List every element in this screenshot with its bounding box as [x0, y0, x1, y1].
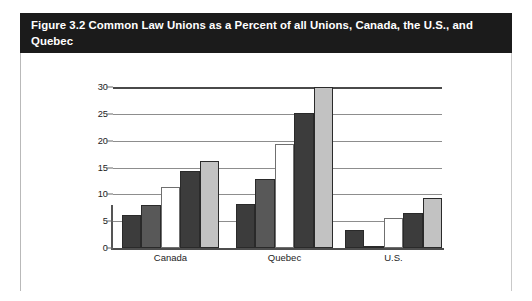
y-tick-label-30: 30	[82, 82, 108, 92]
bar-quebec-series-1	[236, 204, 255, 248]
y-axis-line	[111, 205, 113, 250]
y-tick-label-0: 0	[82, 243, 108, 253]
x-axis-label-canada: Canada	[154, 252, 187, 263]
bar-canada-series-4	[180, 171, 199, 248]
figure-title: Figure 3.2 Common Law Unions as a Percen…	[31, 18, 501, 49]
bar-us-series-5	[423, 198, 442, 248]
y-tick-mark-25	[106, 113, 113, 114]
bar-us-series-4	[403, 213, 422, 248]
bar-us-series-3	[384, 218, 403, 248]
y-axis-tick-labels: 051015202530	[78, 87, 108, 248]
y-tick-mark-15	[106, 167, 113, 168]
bar-canada-series-5	[200, 161, 219, 248]
bar-canada-series-1	[122, 215, 141, 248]
gridline-20	[113, 141, 442, 142]
figure-card: Figure 3.2 Common Law Unions as a Percen…	[0, 0, 532, 301]
bar-us-series-1	[345, 230, 364, 248]
y-tick-label-20: 20	[82, 136, 108, 146]
bar-quebec-series-3	[275, 144, 294, 248]
gridline-25	[113, 114, 442, 115]
x-axis-label-quebec: Quebec	[268, 252, 301, 263]
y-tick-label-15: 15	[82, 163, 108, 173]
y-tick-label-5: 5	[82, 216, 108, 226]
gridline-30	[113, 87, 442, 89]
figure-title-bar: Figure 3.2 Common Law Unions as a Percen…	[20, 13, 512, 53]
bar-canada-series-2	[141, 205, 160, 248]
y-tick-mark-30	[106, 87, 113, 88]
bar-quebec-series-5	[314, 87, 333, 248]
y-tick-mark-10	[106, 194, 113, 195]
y-tick-label-25: 25	[82, 109, 108, 119]
bar-canada-series-3	[161, 187, 180, 248]
y-tick-label-10: 10	[82, 189, 108, 199]
y-tick-mark-5	[106, 221, 113, 222]
y-tick-mark-20	[106, 140, 113, 141]
x-axis-label-us: U.S.	[384, 252, 402, 263]
bar-quebec-series-2	[255, 179, 274, 248]
x-axis-line	[111, 248, 444, 250]
plot-area	[113, 87, 442, 248]
source-note	[28, 297, 504, 301]
y-tick-mark-0	[106, 248, 113, 249]
bar-quebec-series-4	[294, 113, 313, 248]
